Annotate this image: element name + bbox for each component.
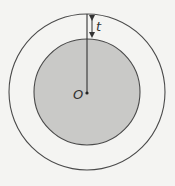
center-label: O (73, 87, 83, 102)
concentric-circles-diagram: t O (0, 0, 175, 186)
center-point (85, 91, 88, 94)
thickness-label: t (96, 19, 102, 34)
diagram-canvas: t O (0, 0, 175, 186)
